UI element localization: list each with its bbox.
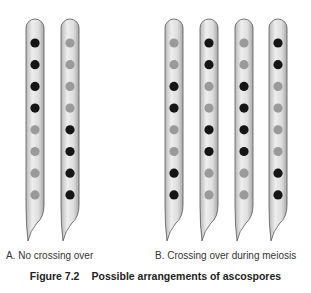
ascus bbox=[26, 19, 44, 241]
panel-a-label: A. No crossing over bbox=[6, 250, 93, 261]
ascospore-dark bbox=[273, 169, 282, 178]
ascospore-dark bbox=[273, 60, 282, 69]
ascospore-light bbox=[169, 125, 178, 134]
ascospore-light bbox=[204, 82, 213, 91]
ascospore-light bbox=[239, 169, 248, 178]
ascospore-dark bbox=[30, 82, 39, 91]
ascospore-diagram bbox=[0, 0, 311, 245]
ascospore-light bbox=[239, 190, 248, 199]
ascospore-light bbox=[273, 104, 282, 113]
ascospore-dark bbox=[239, 104, 248, 113]
figure-title: Possible arrangements of ascospores bbox=[91, 270, 281, 282]
ascus bbox=[235, 19, 253, 241]
ascospore-dark bbox=[65, 125, 74, 134]
ascospore-dark bbox=[65, 169, 74, 178]
ascospore-dark bbox=[239, 125, 248, 134]
ascospore-dark bbox=[30, 104, 39, 113]
ascospore-dark bbox=[169, 104, 178, 113]
ascospore-light bbox=[204, 104, 213, 113]
ascospore-light bbox=[30, 169, 39, 178]
ascospore-light bbox=[239, 38, 248, 47]
ascus bbox=[200, 19, 218, 241]
ascospore-light bbox=[65, 60, 74, 69]
ascospore-dark bbox=[169, 169, 178, 178]
ascospore-light bbox=[169, 38, 178, 47]
ascospore-light bbox=[65, 38, 74, 47]
ascospore-dark bbox=[65, 190, 74, 199]
ascospore-light bbox=[30, 147, 39, 156]
panel-b-label: B. Crossing over during meiosis bbox=[155, 250, 296, 261]
figure-caption: Figure 7.2Possible arrangements of ascos… bbox=[0, 270, 311, 282]
ascospore-dark bbox=[30, 38, 39, 47]
ascus bbox=[269, 19, 287, 241]
ascospore-light bbox=[30, 190, 39, 199]
ascospore-dark bbox=[204, 60, 213, 69]
ascospore-dark bbox=[169, 82, 178, 91]
ascospore-light bbox=[204, 190, 213, 199]
ascospore-light bbox=[273, 82, 282, 91]
figure-number: Figure 7.2 bbox=[30, 270, 80, 282]
ascospore-light bbox=[169, 60, 178, 69]
ascus bbox=[61, 19, 79, 241]
ascospore-dark bbox=[65, 147, 74, 156]
ascospore-light bbox=[65, 104, 74, 113]
ascospore-light bbox=[169, 147, 178, 156]
ascospore-dark bbox=[239, 82, 248, 91]
ascus bbox=[165, 19, 183, 241]
ascospore-dark bbox=[30, 60, 39, 69]
ascospore-light bbox=[30, 125, 39, 134]
ascospore-dark bbox=[204, 125, 213, 134]
ascospore-light bbox=[65, 82, 74, 91]
ascospore-dark bbox=[273, 190, 282, 199]
ascospore-light bbox=[204, 169, 213, 178]
ascospore-dark bbox=[239, 147, 248, 156]
ascospore-light bbox=[273, 147, 282, 156]
ascospore-dark bbox=[204, 147, 213, 156]
ascospore-light bbox=[273, 125, 282, 134]
ascospore-dark bbox=[204, 38, 213, 47]
ascospore-dark bbox=[273, 38, 282, 47]
ascospore-dark bbox=[169, 190, 178, 199]
ascospore-light bbox=[239, 60, 248, 69]
